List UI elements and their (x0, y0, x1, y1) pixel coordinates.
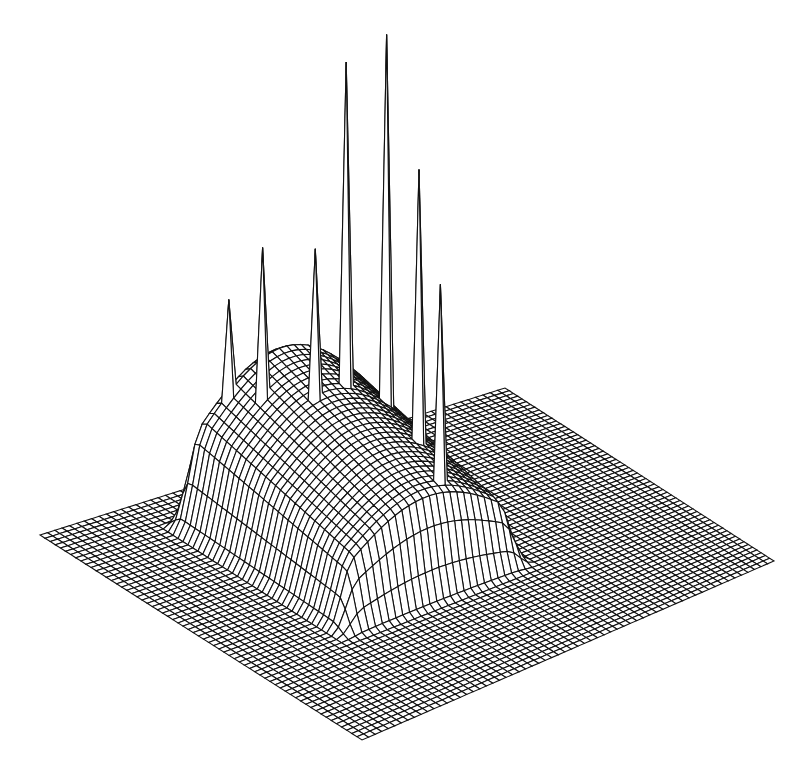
surface-plot (0, 0, 812, 772)
wireframe-mesh (40, 34, 774, 740)
wireframe-surface (0, 0, 812, 772)
